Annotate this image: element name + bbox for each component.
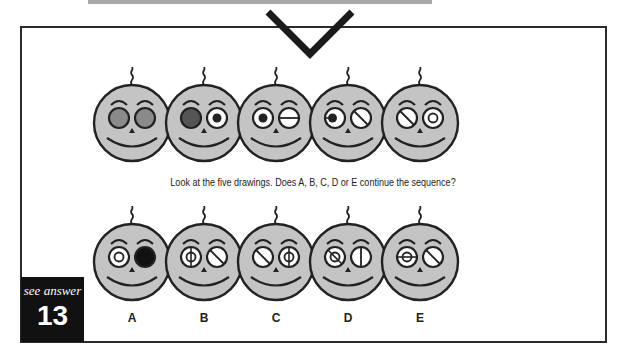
- top-gray-bar: [88, 0, 432, 4]
- instructions-text: Look at the five drawings. Does A, B, C,…: [56, 176, 569, 188]
- v-notch-icon: [262, 8, 358, 60]
- see-answer-label: see answer: [21, 283, 84, 299]
- option-label-d[interactable]: D: [333, 311, 363, 325]
- option-label-a[interactable]: A: [117, 311, 147, 325]
- option-label-b[interactable]: B: [189, 311, 219, 325]
- option-face-e[interactable]: [378, 206, 462, 306]
- see-answer-badge: see answer 13: [21, 277, 84, 342]
- sequence-face-5: [378, 67, 462, 167]
- option-label-e[interactable]: E: [405, 311, 435, 325]
- answer-number: 13: [21, 301, 84, 331]
- option-label-c[interactable]: C: [261, 311, 291, 325]
